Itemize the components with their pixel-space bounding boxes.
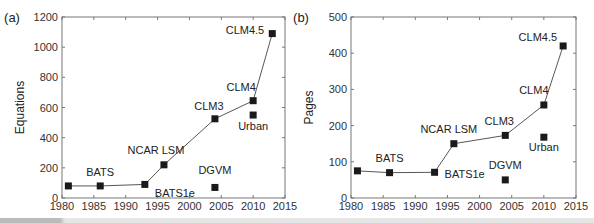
x-tick-label: 1985 — [371, 200, 395, 212]
data-marker — [211, 184, 218, 191]
point-label: NCAR LSM — [128, 144, 185, 156]
y-tick-label: 1000 — [34, 41, 58, 53]
y-tick-label: 300 — [329, 83, 347, 95]
data-marker — [540, 101, 547, 108]
data-marker — [141, 181, 148, 188]
x-tick-label: 2005 — [209, 200, 233, 212]
y-tick-label: 0 — [52, 192, 58, 204]
x-tick-label: 1985 — [82, 200, 106, 212]
data-marker — [560, 42, 567, 49]
chart-panel-b: 1980198519901995200020052010201501002003… — [293, 10, 588, 212]
point-label: BATS — [86, 166, 114, 178]
chart-panel-a: 1980198519901995200020052010201502004006… — [4, 10, 297, 212]
series-line — [68, 34, 272, 186]
data-marker — [250, 112, 257, 119]
point-label: Urban — [238, 120, 268, 132]
x-tick-label: 2010 — [241, 200, 265, 212]
point-label: DGVM — [198, 164, 231, 176]
x-tick-label: 2000 — [177, 200, 201, 212]
x-tick-label: 2015 — [273, 200, 297, 212]
x-tick-label: 2010 — [532, 200, 556, 212]
x-tick-label: 1995 — [145, 200, 169, 212]
x-tick-label: 1990 — [113, 200, 137, 212]
y-axis-label: Equations — [13, 81, 27, 134]
point-label: CLM4.5 — [226, 24, 265, 36]
point-label: CLM3 — [194, 100, 223, 112]
panel-label: (b) — [293, 10, 309, 25]
point-label: BATS1e — [155, 187, 195, 199]
y-tick-label: 400 — [329, 47, 347, 59]
figure: 1980198519901995200020052010201502004006… — [0, 0, 594, 223]
y-tick-label: 200 — [329, 120, 347, 132]
data-marker — [269, 30, 276, 37]
y-tick-label: 500 — [329, 11, 347, 23]
data-marker — [502, 176, 509, 183]
y-axis-label: Pages — [302, 90, 316, 124]
point-label: CLM4 — [519, 84, 548, 96]
panel-label: (a) — [4, 10, 20, 25]
point-label: BATS1e — [445, 168, 485, 180]
x-tick-label: 1995 — [435, 200, 459, 212]
data-marker — [250, 97, 257, 104]
data-marker — [97, 182, 104, 189]
data-marker — [211, 115, 218, 122]
point-label: DGVM — [489, 159, 522, 171]
data-marker — [450, 140, 457, 147]
bottom-edge-bar — [0, 218, 594, 223]
point-label: CLM4.5 — [519, 31, 558, 43]
data-marker — [354, 167, 361, 174]
data-marker — [65, 182, 72, 189]
point-label: CLM3 — [485, 115, 514, 127]
x-tick-label: 2000 — [467, 200, 491, 212]
point-label: NCAR LSM — [420, 123, 477, 135]
x-tick-label: 2015 — [564, 200, 588, 212]
y-tick-label: 0 — [341, 192, 347, 204]
data-marker — [540, 134, 547, 141]
point-label: BATS — [376, 152, 404, 164]
point-label: Urban — [529, 141, 559, 153]
x-tick-label: 1990 — [403, 200, 427, 212]
y-tick-label: 100 — [329, 156, 347, 168]
data-marker — [431, 169, 438, 176]
y-tick-label: 600 — [40, 102, 58, 114]
y-tick-label: 200 — [40, 162, 58, 174]
data-marker — [502, 132, 509, 139]
point-label: CLM4 — [226, 81, 255, 93]
x-tick-label: 2005 — [499, 200, 523, 212]
y-tick-label: 400 — [40, 132, 58, 144]
data-marker — [160, 161, 167, 168]
y-tick-label: 1200 — [34, 11, 58, 23]
y-tick-label: 800 — [40, 71, 58, 83]
data-marker — [386, 169, 393, 176]
